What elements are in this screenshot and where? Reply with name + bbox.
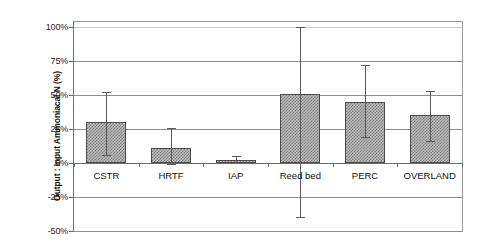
gridline bbox=[74, 231, 462, 232]
y-axis-tick-label: -25% bbox=[48, 193, 68, 202]
x-axis-tick bbox=[333, 163, 334, 167]
x-axis-tick bbox=[203, 163, 204, 167]
x-axis: CSTRHRTFIAPReed bedPERCOVERLAND bbox=[74, 27, 462, 231]
y-axis-tick-label: 25% bbox=[51, 125, 68, 134]
y-axis-tick-label: 50% bbox=[51, 91, 68, 100]
x-axis-label-overland: OVERLAND bbox=[380, 171, 480, 181]
x-axis-tick bbox=[139, 163, 140, 167]
y-axis-tick bbox=[69, 231, 74, 232]
plot-area: CSTRHRTFIAPReed bedPERCOVERLAND bbox=[74, 27, 462, 231]
y-axis-tick-labels: Output : Input Ammoniacal N (%) 100%75%5… bbox=[20, 27, 68, 231]
x-axis-tick bbox=[268, 163, 269, 167]
x-axis-tick bbox=[74, 163, 75, 167]
y-axis-tick-label: 75% bbox=[51, 57, 68, 66]
y-axis-tick-label: 100% bbox=[46, 23, 68, 32]
x-axis-tick bbox=[397, 163, 398, 167]
y-axis-tick-label: 0% bbox=[55, 159, 68, 168]
x-axis-tick bbox=[462, 163, 463, 167]
ammoniacal-n-bar-chart: Output : Input Ammoniacal N (%) 100%75%5… bbox=[0, 0, 487, 252]
y-axis-tick-label: -50% bbox=[48, 227, 68, 236]
